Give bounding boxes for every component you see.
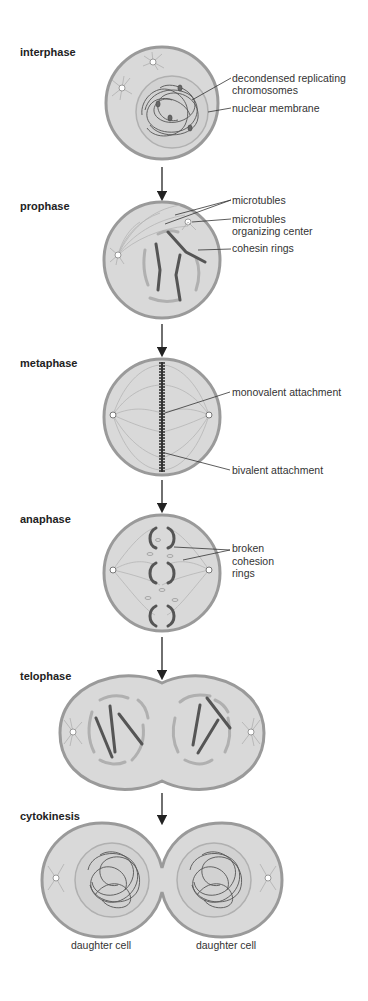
centrosome-icon (206, 412, 212, 418)
centrosome-icon (206, 567, 212, 573)
stage-label-prophase: prophase (20, 200, 70, 212)
daughter-nucleus-left (75, 843, 149, 917)
label-mtoc-line1: microtubles (232, 213, 286, 225)
label-chromosomes: chromosomes (232, 84, 298, 96)
label-broken: broken (232, 542, 264, 554)
label-nuclear-membrane: nuclear membrane (232, 102, 320, 114)
prophase-stage: prophase mic (20, 194, 313, 318)
daughter-nucleus-right (177, 843, 251, 917)
cytokinesis-stage: cytokinesis daughter cell daughter cell (20, 810, 282, 951)
label-cohesin-rings: cohesin rings (232, 242, 294, 254)
label-bivalent-attachment: bivalent attachment (232, 464, 323, 476)
stage-label-cytokinesis: cytokinesis (20, 810, 80, 822)
telophase-stage: telophase (20, 670, 264, 789)
label-mtoc-line2: organizing center (232, 225, 313, 237)
mitosis-diagram: interphase decondensed replicating chrom (0, 0, 368, 1001)
label-microtubles: microtubles (232, 194, 286, 206)
label-decondensed: decondensed replicating (232, 72, 346, 84)
centrosome-icon (110, 412, 116, 418)
telophase-cell (60, 676, 264, 790)
stage-label-interphase: interphase (20, 46, 76, 58)
stage-label-telophase: telophase (20, 670, 71, 682)
label-monovalent-attachment: monovalent attachment (232, 386, 341, 398)
label-daughter-cell-right: daughter cell (196, 939, 256, 951)
stage-label-anaphase: anaphase (20, 513, 71, 525)
anaphase-stage: anaphase (20, 513, 274, 631)
stage-label-metaphase: metaphase (20, 357, 77, 369)
anaphase-cell (104, 515, 220, 631)
centrosome-icon (110, 567, 116, 573)
label-daughter-cell-left: daughter cell (71, 939, 131, 951)
metaphase-stage: metaphase monovalent attachment bivalent… (20, 357, 341, 476)
interphase-stage: interphase decondensed replicating chrom (20, 46, 346, 159)
label-cohesion: cohesion (232, 555, 274, 567)
label-rings: rings (232, 567, 255, 579)
